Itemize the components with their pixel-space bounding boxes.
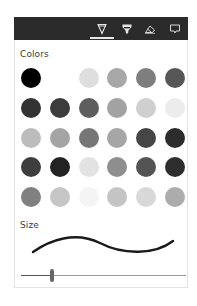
size-slider-thumb[interactable] xyxy=(50,269,54,282)
size-slider-fill xyxy=(21,275,52,276)
pen-settings-flyout: Colors Size xyxy=(14,17,188,288)
stroke-preview-curve xyxy=(33,237,173,252)
stroke-preview xyxy=(15,18,189,268)
